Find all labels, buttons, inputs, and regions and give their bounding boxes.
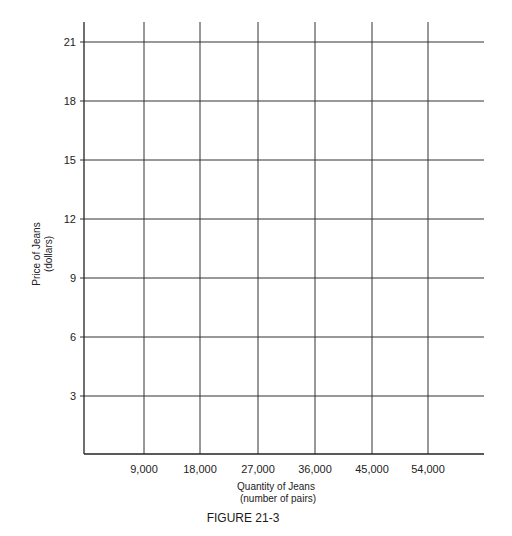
x-tick-label: 45,000 <box>355 463 389 475</box>
y-tick-label: 15 <box>64 154 76 166</box>
y-axis-title: Price of Jeans (dollars) <box>31 222 54 285</box>
x-tick-label: 54,000 <box>411 463 445 475</box>
blank-demand-supply-grid-chart: 36912151821 9,00018,00027,00036,00045,00… <box>0 0 512 536</box>
vertical-gridlines <box>144 22 428 454</box>
y-axis-title-line-2: (dollars) <box>43 236 54 272</box>
x-tick-label: 36,000 <box>298 463 332 475</box>
x-tick-label: 18,000 <box>183 463 217 475</box>
y-axis-tick-labels: 36912151821 <box>64 36 76 402</box>
x-tick-label: 9,000 <box>130 463 158 475</box>
y-tick-label: 3 <box>70 390 76 402</box>
y-tick-label: 18 <box>64 95 76 107</box>
y-tick-label: 21 <box>64 36 76 48</box>
x-axis-title-line-2: (number of pairs) <box>240 493 316 504</box>
x-axis-title-line-1: Quantity of Jeans <box>237 481 315 492</box>
y-tick-label: 12 <box>64 213 76 225</box>
y-tick-label: 6 <box>70 331 76 343</box>
y-tick-label: 9 <box>70 272 76 284</box>
x-axis-tick-labels: 9,00018,00027,00036,00045,00054,000 <box>130 463 445 475</box>
x-tick-label: 27,000 <box>241 463 275 475</box>
figure-caption: FIGURE 21-3 <box>207 511 280 525</box>
horizontal-gridlines <box>80 42 484 396</box>
y-axis-title-line-1: Price of Jeans <box>31 222 42 285</box>
